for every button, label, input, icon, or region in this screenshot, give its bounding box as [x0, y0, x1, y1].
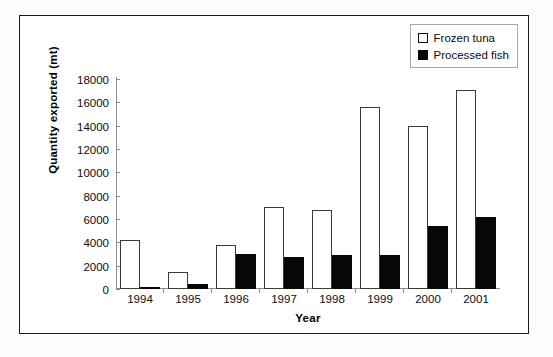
legend-label-frozen-tuna: Frozen tuna [434, 32, 495, 44]
bar-group [164, 79, 212, 289]
bar-processed-fish [284, 257, 304, 289]
y-axis-tick-label: 2000 [83, 261, 109, 273]
bar-frozen-tuna [408, 126, 428, 289]
bar-group [260, 79, 308, 289]
y-axis-tick-label: 10000 [77, 167, 109, 179]
bar-group [116, 79, 164, 289]
y-axis-tick: 0 [103, 280, 116, 298]
x-axis-ticks: 19941995199619971998199920002001 [116, 293, 500, 305]
legend-swatch-open-square-icon [418, 33, 428, 43]
y-axis-tick: 10000 [77, 163, 116, 181]
y-axis-title: Quantity exported (mt) [47, 5, 59, 215]
bar-frozen-tuna [120, 240, 140, 289]
x-axis-title: Year [116, 312, 500, 324]
y-axis-tick-label: 14000 [77, 121, 109, 133]
bar-group [404, 79, 452, 289]
bar-group [452, 79, 500, 289]
x-axis-tick-label: 1996 [212, 293, 260, 305]
bar-processed-fish [140, 287, 160, 289]
y-axis-tick: 4000 [83, 233, 116, 251]
bar-processed-fish [188, 284, 208, 289]
bar-group [212, 79, 260, 289]
x-axis-tick-label: 1999 [356, 293, 404, 305]
bar-processed-fish [332, 255, 352, 289]
bar-frozen-tuna [264, 207, 284, 289]
x-axis-tick-label: 1998 [308, 293, 356, 305]
page-background: Quantity exported (mt) 18000160001400012… [0, 0, 553, 357]
x-axis-tick-label: 2000 [404, 293, 452, 305]
chart-legend: Frozen tuna Processed fish [410, 24, 518, 68]
legend-item-frozen-tuna: Frozen tuna [418, 32, 509, 44]
y-axis-tick: 18000 [77, 70, 116, 88]
bar-groups [116, 79, 500, 289]
y-axis-tick: 8000 [83, 187, 116, 205]
bar-processed-fish [476, 217, 496, 289]
y-axis-tick-label: 0 [103, 284, 109, 296]
y-axis-tick-label: 8000 [83, 191, 109, 203]
bar-frozen-tuna [216, 245, 236, 289]
legend-label-processed-fish: Processed fish [434, 49, 509, 61]
legend-item-processed-fish: Processed fish [418, 49, 509, 61]
y-axis-tick: 2000 [83, 257, 116, 275]
bar-processed-fish [380, 255, 400, 289]
chart-plot-wrapper: Quantity exported (mt) 18000160001400012… [20, 16, 528, 333]
bar-group [308, 79, 356, 289]
x-axis-tick-label: 1994 [116, 293, 164, 305]
x-axis-tick-label: 1997 [260, 293, 308, 305]
legend-swatch-filled-square-icon [418, 50, 428, 60]
y-axis-tick: 6000 [83, 210, 116, 228]
x-axis-tick-label: 1995 [164, 293, 212, 305]
bar-frozen-tuna [312, 210, 332, 289]
bar-processed-fish [236, 254, 256, 289]
bar-frozen-tuna [168, 272, 188, 289]
plot-area: 1800016000140001200010000800060004000200… [116, 79, 500, 289]
bar-processed-fish [428, 226, 448, 289]
y-axis-tick-label: 16000 [77, 97, 109, 109]
y-axis-tick-label: 4000 [83, 237, 109, 249]
bar-frozen-tuna [456, 90, 476, 290]
chart-frame: Quantity exported (mt) 18000160001400012… [19, 15, 529, 334]
x-axis-tick-label: 2001 [452, 293, 500, 305]
bar-frozen-tuna [360, 107, 380, 289]
y-axis-tick-mark [116, 289, 120, 290]
bar-group [356, 79, 404, 289]
y-axis-tick: 14000 [77, 117, 116, 135]
y-axis-tick: 12000 [77, 140, 116, 158]
y-axis-tick-label: 6000 [83, 214, 109, 226]
y-axis-tick-label: 12000 [77, 144, 109, 156]
y-axis-tick-label: 18000 [77, 74, 109, 86]
y-axis-tick: 16000 [77, 93, 116, 111]
